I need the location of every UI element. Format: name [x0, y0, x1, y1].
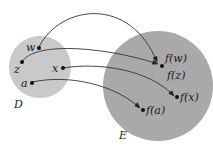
label-fx: f(x): [179, 91, 199, 104]
point-a: [30, 81, 34, 85]
label-x: x: [52, 62, 59, 75]
point-x: [61, 66, 65, 70]
label-a: a: [21, 77, 28, 90]
label-fw: f(w): [164, 52, 187, 65]
label-fz: f(z): [166, 69, 185, 82]
label-set-e: E: [118, 129, 127, 142]
point-z: [20, 60, 24, 64]
set-e-region: [103, 31, 213, 141]
function-mapping-diagram: w z x a D f(w) f(z) f(x) f(a) E: [0, 0, 213, 149]
point-fa: [141, 108, 145, 112]
label-fa: f(a): [145, 104, 165, 117]
point-w: [37, 46, 41, 50]
label-z: z: [13, 63, 20, 76]
label-w: w: [26, 41, 36, 54]
label-set-d: D: [13, 98, 23, 111]
point-fx: [175, 95, 179, 99]
point-fw-fz: [160, 64, 164, 68]
